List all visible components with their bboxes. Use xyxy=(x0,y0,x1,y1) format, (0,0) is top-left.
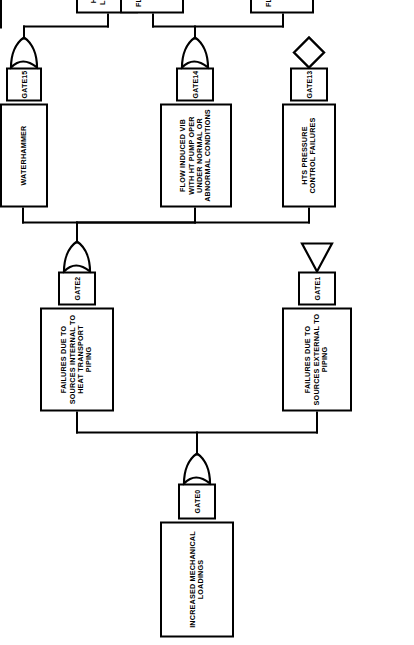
connector-gate2-to-pressure xyxy=(308,205,310,223)
transfer-triangle-symbol-gate1 xyxy=(300,241,334,273)
node-waterhammer: WATERHAMMER xyxy=(0,103,48,207)
node-failure-instantaneous-seizure: FAILURE DUE TO INSTANTANEOUS SEIZURE OF … xyxy=(0,0,2,28)
node-hts-pressure-control-failures: HTS PRESSURE CONTROL FAILURES xyxy=(282,103,336,207)
or-gate-symbol-gate14 xyxy=(180,35,210,69)
node-flow-induced-vib-normal: FLOW INDUCED VIB DUE TO HT PUMP OPER UND… xyxy=(250,0,314,13)
connector-gate14-bus xyxy=(152,25,284,27)
fault-tree-rotated-group: INCREASED MECHANICAL LOADINGS GATE0 FAIL… xyxy=(0,0,414,645)
connector-gate15-bus xyxy=(23,25,109,27)
connector-gate0-bus xyxy=(76,431,318,433)
connector-gate0-stem xyxy=(196,431,198,455)
node-flow-induced-vib-abnormal: FLOW INDUCED VIB DUE TO HT PUMP OPER UND… xyxy=(120,0,184,13)
fault-tree-diagram: INCREASED MECHANICAL LOADINGS GATE0 FAIL… xyxy=(0,0,414,645)
connector-gate2-to-waterhammer xyxy=(22,205,24,223)
node-failures-external-piping: FAILURES DUE TO SOURCES EXTERNAL TO PIPI… xyxy=(282,307,352,411)
or-gate-symbol-gate15 xyxy=(9,35,39,69)
gate-label-gate2: GATE2 xyxy=(58,271,96,305)
diamond-undeveloped-symbol-gate13 xyxy=(292,35,326,69)
node-increased-mechanical-loadings: INCREASED MECHANICAL LOADINGS xyxy=(160,521,234,637)
connector-gate0-to-external xyxy=(316,409,318,433)
connector-gate2-to-flowvib xyxy=(194,205,196,223)
connector-gate2-stem xyxy=(76,221,78,243)
connector-gate0-to-internal xyxy=(76,409,78,433)
node-failures-internal-ht-piping: FAILURES DUE TO SOURCES INTERNAL TO HEAT… xyxy=(40,307,114,411)
gate-label-gate13: GATE13 xyxy=(290,67,328,101)
gate-label-gate14: GATE14 xyxy=(176,67,214,101)
gate-label-gate1: GATE1 xyxy=(298,271,336,305)
gate-label-gate15: GATE15 xyxy=(6,67,42,101)
gate-label-gate0: GATE0 xyxy=(178,483,216,519)
or-gate-symbol-gate0 xyxy=(182,451,212,485)
or-gate-symbol-gate2 xyxy=(62,239,92,273)
connector-gate2-bus-lower xyxy=(76,221,310,223)
node-flow-induced-vib-normal-abnormal: FLOW INDUCED VIB WITH HT PUMP OPER UNDER… xyxy=(160,103,232,207)
